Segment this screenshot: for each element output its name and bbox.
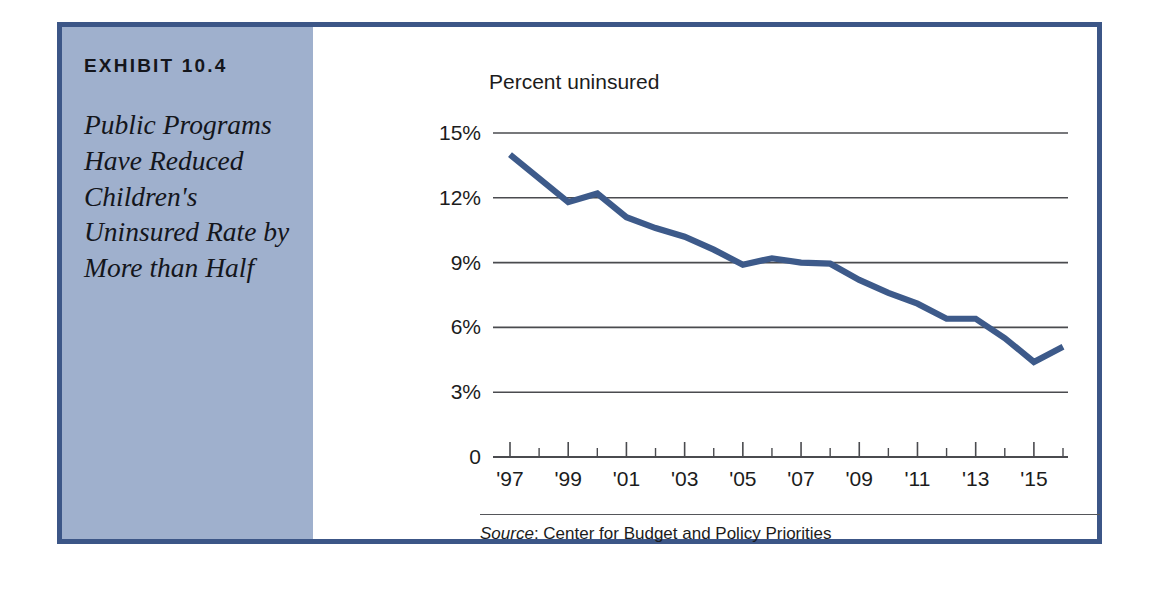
- y-tick-label: 15%: [439, 121, 481, 144]
- y-tick-label: 9%: [451, 251, 481, 274]
- y-tick-label: 3%: [451, 380, 481, 403]
- exhibit-number-label: EXHIBIT 10.4: [84, 55, 293, 77]
- source-divider: [480, 514, 1100, 515]
- series-line-percent-uninsured: [510, 155, 1063, 362]
- x-axis-tick-labels: '97'99'01'03'05'07'09'11'13'15: [496, 467, 1047, 490]
- x-tick-label: '99: [555, 467, 582, 490]
- x-tick-label: '03: [671, 467, 698, 490]
- x-tick-label: '07: [787, 467, 814, 490]
- y-tick-label: 6%: [451, 315, 481, 338]
- exhibit-title: Public Programs Have Reduced Children's …: [84, 107, 293, 286]
- x-tick-label: '13: [962, 467, 989, 490]
- x-tick-label: '01: [613, 467, 640, 490]
- x-axis-ticks: [510, 442, 1063, 457]
- source-label: Source: [480, 524, 534, 543]
- chart-panel: Percent uninsured 03%6%9%12%15% '97'99'0…: [313, 27, 1097, 539]
- exhibit-frame: EXHIBIT 10.4 Public Programs Have Reduce…: [57, 22, 1102, 544]
- y-tick-label: 0: [469, 445, 481, 468]
- source-text: : Center for Budget and Policy Prioritie…: [534, 524, 832, 543]
- exhibit-caption-panel: EXHIBIT 10.4 Public Programs Have Reduce…: [62, 27, 313, 539]
- x-tick-label: '97: [496, 467, 523, 490]
- source-note: Source: Center for Budget and Policy Pri…: [480, 524, 832, 544]
- x-tick-label: '15: [1020, 467, 1047, 490]
- x-tick-label: '09: [846, 467, 873, 490]
- line-chart-plot: 03%6%9%12%15% '97'99'01'03'05'07'09'11'1…: [313, 27, 1107, 549]
- y-axis-tick-labels: 03%6%9%12%15%: [439, 121, 481, 468]
- x-tick-label: '05: [729, 467, 756, 490]
- gridlines: [493, 133, 1068, 457]
- x-tick-label: '11: [905, 467, 931, 490]
- y-tick-label: 12%: [439, 186, 481, 209]
